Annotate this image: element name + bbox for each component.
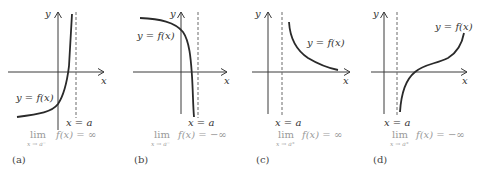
limit-word: lim bbox=[278, 129, 294, 140]
x-axis-label: x bbox=[343, 75, 349, 86]
panel-caption: (d) bbox=[373, 154, 387, 165]
asymptote-label: x = a bbox=[384, 117, 410, 128]
y-axis-label: y bbox=[254, 8, 261, 19]
curve-label: y = f(x) bbox=[15, 92, 54, 103]
asymptote-label: x = a bbox=[275, 117, 301, 128]
limit-expression: f(x) = ∞ bbox=[55, 129, 96, 140]
limit-expression: f(x) = −∞ bbox=[177, 129, 227, 140]
y-axis-label: y bbox=[44, 8, 51, 19]
panel-b: y x y = f(x) x = a lim x → a⁻ f(x) = −∞ … bbox=[133, 8, 230, 165]
y-axis-label: y bbox=[169, 8, 176, 19]
panel-caption: (c) bbox=[256, 154, 270, 165]
limit-word: lim bbox=[392, 129, 408, 140]
vertical-asymptote-figure: y x y = f(x) x = a lim x → a⁻ f(x) = ∞ (… bbox=[0, 0, 477, 176]
limit-subscript: x → a⁺ bbox=[390, 140, 409, 147]
limit-expression: f(x) = ∞ bbox=[301, 129, 342, 140]
panel-a: y x y = f(x) x = a lim x → a⁻ f(x) = ∞ (… bbox=[8, 8, 107, 165]
panel-c: y x y = f(x) x = a lim x → a⁺ f(x) = ∞ (… bbox=[252, 8, 350, 165]
x-axis-label: x bbox=[101, 75, 107, 86]
curve-label: y = f(x) bbox=[306, 37, 345, 48]
limit-subscript: x → a⁺ bbox=[276, 140, 295, 147]
limit-subscript: x → a⁻ bbox=[27, 140, 46, 147]
x-axis-label: x bbox=[224, 75, 230, 86]
y-axis-label: y bbox=[372, 8, 379, 19]
x-axis-label: x bbox=[462, 75, 468, 86]
curve-label: y = f(x) bbox=[136, 30, 175, 41]
limit-word: lim bbox=[30, 129, 46, 140]
panel-caption: (a) bbox=[12, 154, 26, 165]
curve-label: y = f(x) bbox=[434, 21, 473, 32]
asymptote-label: x = a bbox=[188, 117, 214, 128]
panel-d: y x y = f(x) x = a lim x → a⁺ f(x) = −∞ … bbox=[371, 8, 473, 165]
asymptote-label: x = a bbox=[66, 117, 92, 128]
panel-caption: (b) bbox=[134, 154, 148, 165]
limit-subscript: x → a⁻ bbox=[151, 140, 170, 147]
limit-word: lim bbox=[154, 129, 170, 140]
limit-expression: f(x) = −∞ bbox=[415, 129, 465, 140]
